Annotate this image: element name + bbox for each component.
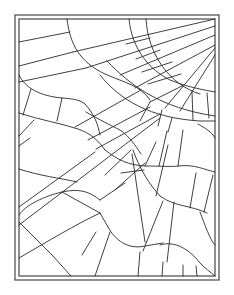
pattern-line [138, 252, 140, 276]
pattern-line [100, 213, 108, 227]
pattern-line [85, 104, 100, 135]
pattern-line [19, 138, 30, 146]
pattern-line [52, 255, 71, 276]
pattern-line [19, 75, 85, 104]
pattern-line [19, 213, 100, 258]
pattern-line [95, 232, 110, 276]
pattern-line [19, 68, 86, 82]
pattern-line [23, 89, 31, 115]
pattern-line [82, 232, 96, 255]
line-art-canvas [0, 0, 234, 295]
pattern-line [108, 227, 163, 247]
pattern-line [62, 192, 100, 213]
pattern-line [100, 183, 125, 200]
pattern-line [167, 202, 174, 262]
pattern-line [19, 32, 70, 42]
pattern-line [162, 262, 163, 276]
pattern-line [168, 118, 172, 132]
pattern-line [159, 131, 167, 166]
pattern-line [196, 266, 197, 276]
pattern-line [19, 120, 34, 136]
pattern-line [75, 90, 141, 127]
pattern-line [178, 130, 183, 166]
pattern-line [19, 222, 52, 255]
pattern-line [115, 163, 145, 190]
pattern-line [19, 152, 95, 207]
pattern-line [19, 52, 73, 66]
pattern-line [145, 142, 156, 166]
pattern-line [96, 114, 160, 149]
pattern-line [198, 124, 215, 138]
pattern-line [200, 212, 215, 245]
pattern-lines [19, 19, 215, 276]
pattern-line [192, 92, 193, 120]
pattern-line [121, 170, 144, 173]
outer-frame [15, 15, 219, 280]
pattern-line [57, 98, 62, 121]
pattern-line [204, 175, 213, 212]
pattern-line [19, 113, 105, 150]
pattern-line [88, 107, 150, 140]
pattern-line [73, 19, 215, 52]
pattern-line [190, 173, 196, 208]
pattern-line [133, 150, 207, 213]
stained-glass-pattern-artwork [0, 0, 234, 295]
pattern-line [132, 154, 145, 242]
pattern-line [207, 93, 209, 118]
pattern-line [146, 19, 200, 94]
